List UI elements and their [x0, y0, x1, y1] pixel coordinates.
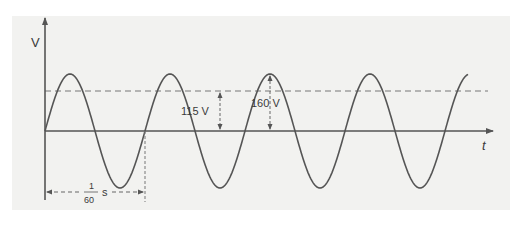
x-axis-label: t [482, 138, 487, 153]
period-numerator: 1 [89, 181, 94, 191]
peak-label: 160 V [251, 97, 280, 109]
y-axis-label: V [31, 35, 40, 50]
rms-label: 115 V [181, 105, 210, 117]
sine-wave-diagram: V t 115 V 160 V 1 60 s [0, 0, 526, 226]
period-denominator: 60 [84, 195, 94, 205]
period-unit: s [102, 186, 108, 198]
